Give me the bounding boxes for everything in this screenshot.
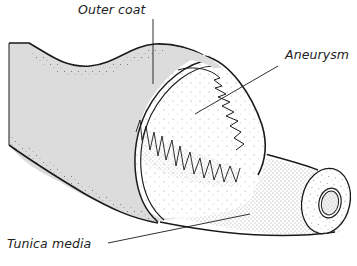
tunica-media-leader: [108, 214, 250, 243]
artery-illustration: [0, 0, 357, 266]
tunica-media-label: Tunica media: [7, 236, 91, 251]
outer-coat-label: Outer coat: [78, 2, 146, 17]
aneurysm-label: Aneurysm: [285, 47, 349, 62]
aneurysm-diagram: Outer coat Aneurysm Tunica media: [0, 0, 357, 266]
